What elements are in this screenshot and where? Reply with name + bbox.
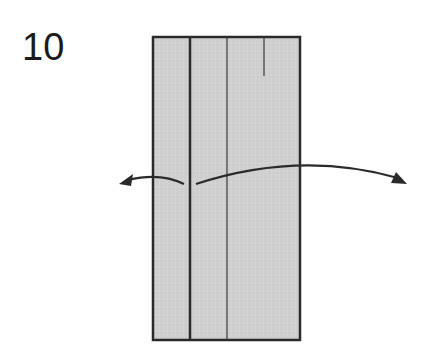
origami-diagram (0, 0, 428, 363)
arrowhead-right-icon (391, 172, 407, 184)
paper-model (153, 37, 300, 340)
arrowhead-left-icon (119, 174, 133, 186)
